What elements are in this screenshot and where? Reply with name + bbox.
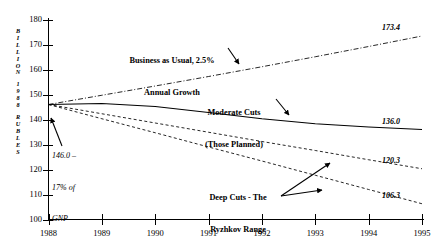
end-label-business-as-usual: 173.4 xyxy=(382,23,400,32)
annotation-line: (Those Planned) xyxy=(186,140,282,151)
end-label-deep-cuts-lower: 106.3 xyxy=(382,191,400,200)
annotation-origin-note: 146.0 – 17% of GNP xyxy=(52,130,112,246)
annotation-moderate-cuts: Moderate Cuts (Those Planned) xyxy=(186,87,282,171)
chart-container: B I L L I O N 1 9 8 8 R U B L E S 180170… xyxy=(0,0,438,252)
end-label-deep-cuts-upper: 120.3 xyxy=(382,156,400,165)
arrow-deep-cuts-upper xyxy=(281,163,330,196)
arrow-deep-cuts-lower xyxy=(281,190,322,196)
annotation-line: Moderate Cuts xyxy=(186,108,282,119)
annotation-line: Ryzhkov Range xyxy=(190,225,286,236)
annotation-line: Business as Usual, 2.5% xyxy=(108,56,236,67)
annotation-deep-cuts: Deep Cuts - The Ryzhkov Range xyxy=(190,172,286,252)
annotation-line: Deep Cuts - The xyxy=(190,193,286,204)
end-label-moderate-cuts: 136.0 xyxy=(382,117,400,126)
annotation-line: 17% of xyxy=(52,183,112,194)
annotation-line: GNP xyxy=(52,214,112,225)
annotation-line: 146.0 – xyxy=(52,151,112,162)
